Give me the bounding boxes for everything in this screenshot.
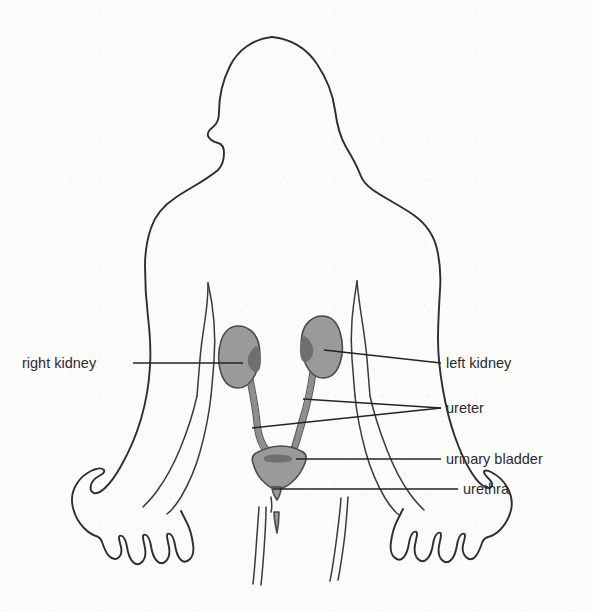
label-right-kidney: right kidney — [22, 355, 97, 371]
left-leg-outline-inner — [261, 507, 266, 585]
inner-contour-left-arm-2 — [167, 396, 211, 514]
left-leg-outline — [253, 507, 259, 584]
organ-urethra — [272, 487, 281, 533]
organ-left-kidney — [300, 316, 342, 378]
inner-contour-left-arm — [143, 396, 197, 507]
inner-contour-right-flank — [357, 281, 370, 396]
perineum-mark — [271, 497, 272, 512]
leader-ureter-lower — [252, 408, 441, 428]
body-outline-group — [72, 37, 512, 585]
left-ureter-tube — [293, 372, 313, 451]
organ-right-kidney — [219, 326, 261, 388]
inner-contour-right-flank-2 — [351, 281, 357, 396]
diagram-page: right kidney left kidney ureter urinary … — [0, 0, 593, 612]
urinary-bladder-shape — [252, 446, 306, 489]
urinary-system-diagram: right kidney left kidney ureter urinary … — [0, 0, 593, 612]
inner-contour-left-flank — [197, 283, 208, 396]
label-urethra: urethra — [463, 481, 510, 497]
head-and-torso-outline — [72, 37, 272, 564]
organ-urinary-bladder — [252, 446, 306, 489]
label-ureter: ureter — [446, 400, 484, 416]
label-urinary-bladder: urinary bladder — [446, 451, 543, 467]
urethra-distal — [274, 512, 279, 533]
label-left-kidney: left kidney — [446, 355, 512, 371]
inner-contour-left-flank-2 — [208, 283, 215, 396]
